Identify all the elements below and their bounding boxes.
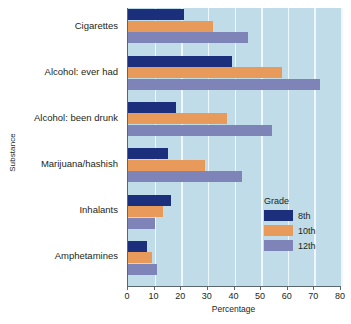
x-tick-label-60: 60	[275, 291, 299, 301]
legend-item-8th: 8th	[264, 209, 338, 222]
x-tick-30	[207, 286, 208, 290]
x-tick-60	[287, 286, 288, 290]
bar-alcohol-been-drunk-12th	[128, 125, 272, 136]
x-tick-label-50: 50	[248, 291, 272, 301]
legend-swatch-8th	[264, 210, 293, 221]
bar-alcohol-ever-had-10th	[128, 67, 282, 78]
bar-marijuana-hashish-10th	[128, 160, 205, 171]
bar-alcohol-ever-had-12th	[128, 79, 320, 90]
gridline-30	[208, 8, 210, 286]
legend-swatch-12th	[264, 240, 293, 251]
x-tick-10	[154, 286, 155, 290]
bar-chart: Substance Cigarettes Alcohol: ever had A…	[0, 0, 351, 324]
bar-amphetamines-8th	[128, 241, 147, 252]
bar-cigarettes-8th	[128, 9, 184, 20]
bar-alcohol-been-drunk-10th	[128, 113, 227, 124]
bar-alcohol-ever-had-8th	[128, 56, 232, 67]
bar-inhalants-8th	[128, 195, 171, 206]
gridline-50	[261, 8, 263, 286]
bar-cigarettes-12th	[128, 32, 248, 43]
y-axis-category-labels: Cigarettes Alcohol: ever had Alcohol: be…	[0, 8, 122, 286]
gridline-80	[341, 8, 343, 286]
x-tick-label-20: 20	[168, 291, 192, 301]
x-tick-70	[313, 286, 314, 290]
bar-marijuana-hashish-8th	[128, 148, 168, 159]
bar-inhalants-10th	[128, 206, 163, 217]
x-tick-50	[260, 286, 261, 290]
x-tick-label-80: 80	[328, 291, 351, 301]
bar-cigarettes-10th	[128, 21, 213, 32]
y-axis-label-1: Alcohol: ever had	[0, 66, 118, 77]
legend-title: Grade	[264, 196, 338, 206]
legend-label-10th: 10th	[298, 226, 316, 236]
x-tick-0	[127, 286, 128, 290]
legend-label-8th: 8th	[298, 211, 311, 221]
gridline-10	[155, 8, 157, 286]
x-tick-label-70: 70	[301, 291, 325, 301]
y-axis-label-4: Inhalants	[0, 204, 118, 215]
legend-label-12th: 12th	[298, 241, 316, 251]
legend-swatch-10th	[264, 225, 293, 236]
x-tick-80	[340, 286, 341, 290]
bar-amphetamines-12th	[128, 264, 157, 275]
bar-amphetamines-10th	[128, 252, 152, 263]
y-axis-label-0: Cigarettes	[0, 20, 118, 31]
x-axis-title: Percentage	[127, 304, 340, 314]
y-axis-label-5: Amphetamines	[0, 250, 118, 261]
y-axis-label-2: Alcohol: been drunk	[0, 112, 118, 123]
x-tick-label-0: 0	[115, 291, 139, 301]
x-tick-20	[180, 286, 181, 290]
bar-inhalants-12th	[128, 218, 155, 229]
legend-item-12th: 12th	[264, 239, 338, 252]
x-tick-40	[234, 286, 235, 290]
bar-alcohol-been-drunk-8th	[128, 102, 176, 113]
legend-item-10th: 10th	[264, 224, 338, 237]
x-tick-label-40: 40	[222, 291, 246, 301]
x-tick-label-30: 30	[195, 291, 219, 301]
bar-marijuana-hashish-12th	[128, 171, 242, 182]
gridline-40	[235, 8, 237, 286]
gridline-20	[181, 8, 183, 286]
x-tick-label-10: 10	[142, 291, 166, 301]
legend: Grade 8th 10th 12th	[264, 196, 338, 254]
y-axis-label-3: Marijuana/hashish	[0, 158, 118, 169]
